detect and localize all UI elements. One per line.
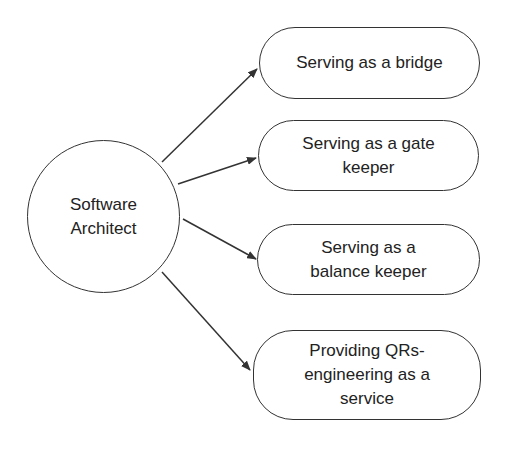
role-balance-keeper-node: Serving as a balance keeper <box>257 224 480 295</box>
role-bridge-node: Serving as a bridge <box>259 27 480 99</box>
role-bridge-label: Serving as a bridge <box>296 51 442 75</box>
software-architect-node: Software Architect <box>27 140 180 293</box>
arrow-to-balance-keeper <box>183 219 256 259</box>
role-gate-keeper-node: Serving as a gate keeper <box>258 120 479 191</box>
role-balance-keeper-line2: balance keeper <box>310 260 426 284</box>
center-label-line1: Software <box>70 193 137 217</box>
arrow-to-bridge <box>162 69 257 162</box>
role-qrs-service-line2: engineering as a <box>304 363 430 387</box>
role-qrs-service-node: Providing QRs- engineering as a service <box>253 330 481 420</box>
center-label-line2: Architect <box>70 217 137 241</box>
role-gate-keeper-line2: keeper <box>302 156 434 180</box>
role-gate-keeper-line1: Serving as a gate <box>302 132 434 156</box>
arrow-to-qrs-service <box>162 272 250 370</box>
role-qrs-service-line3: service <box>304 387 430 411</box>
role-qrs-service-line1: Providing QRs- <box>304 339 430 363</box>
role-balance-keeper-line1: Serving as a <box>310 236 426 260</box>
arrow-to-gate-keeper <box>178 158 256 184</box>
